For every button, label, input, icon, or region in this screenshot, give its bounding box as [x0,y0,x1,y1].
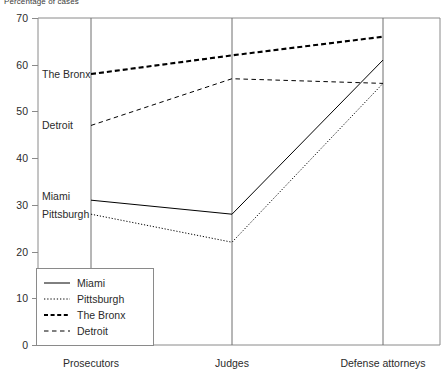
legend-swatch-the-bronx [44,310,70,320]
legend-item: Detroit [44,323,145,339]
series-line-detroit [91,79,383,126]
legend-label-pittsburgh: Pittsburgh [77,294,124,305]
legend-label-detroit: Detroit [77,326,108,337]
legend-label-miami: Miami [77,278,105,289]
series-line-the-bronx [91,37,383,74]
chart-legend: Miami Pittsburgh The Bronx Detroit [36,268,154,346]
legend-label-the-bronx: The Bronx [77,310,125,321]
legend-item: Miami [44,275,145,291]
series-line-pittsburgh [91,83,383,242]
legend-item: Pittsburgh [44,291,145,307]
legend-swatch-miami [44,278,70,288]
legend-swatch-detroit [44,326,70,336]
legend-swatch-pittsburgh [44,294,70,304]
series-line-miami [91,60,383,214]
legend-item: The Bronx [44,307,145,323]
